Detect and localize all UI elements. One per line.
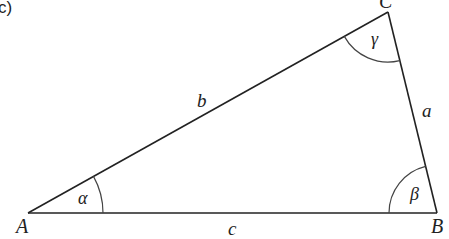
angle-alpha-label: α [78, 189, 87, 207]
vertex-a-label: A [16, 216, 28, 236]
side-b-line [28, 12, 388, 213]
panel-label: c) [0, 0, 12, 18]
angle-alpha-arc [94, 176, 104, 213]
angle-gamma-label: γ [371, 30, 378, 48]
side-c-label: c [228, 219, 236, 238]
angle-beta-label: β [410, 185, 419, 203]
triangle-svg [0, 0, 449, 239]
triangle-diagram: c) A B C b a c α β γ [0, 0, 449, 239]
side-a-label: a [422, 101, 432, 120]
vertex-b-label: B [431, 216, 443, 236]
vertex-c-label: C [379, 0, 392, 11]
angle-beta-arc [389, 166, 426, 213]
side-b-label: b [197, 91, 207, 110]
